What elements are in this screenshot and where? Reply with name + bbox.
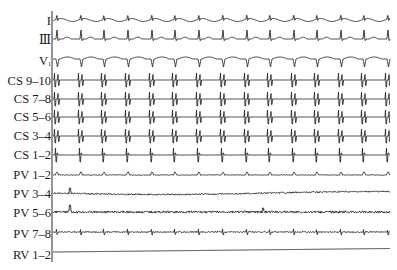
- trace-v: [53, 57, 390, 67]
- trace-i: [53, 15, 390, 21]
- trace-plot: [0, 0, 397, 270]
- trace-cs-1-2: [53, 148, 390, 162]
- trace-cs-9-10: [53, 73, 390, 87]
- trace-cs-5-6: [53, 110, 390, 124]
- trace-pv-1-2: [53, 172, 390, 176]
- electrogram-figure: IⅢV1CS 9–10CS 7–8CS 5–6CS 3–4CS 1–2PV 1–…: [0, 0, 397, 270]
- trace-pv-7-8: [53, 229, 390, 235]
- trace--: [53, 30, 390, 41]
- trace-pv-3-4: [53, 188, 390, 195]
- trace-rv-1-2: [53, 249, 390, 253]
- trace-pv-5-6: [53, 205, 390, 213]
- trace-cs-7-8: [53, 92, 390, 106]
- traces-group: [53, 15, 390, 252]
- trace-cs-3-4: [53, 129, 390, 143]
